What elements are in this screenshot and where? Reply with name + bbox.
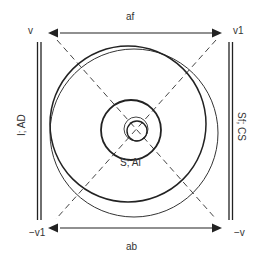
left-double-bar bbox=[38, 42, 42, 220]
arrowhead-left-icon bbox=[48, 224, 58, 233]
label-neg-v1: −v1 bbox=[29, 227, 46, 238]
inner-circle bbox=[127, 121, 147, 141]
label-right: Sf; CS bbox=[236, 112, 247, 141]
label-af: af bbox=[126, 11, 135, 22]
diagram-canvas: v v1 −v1 −v af ab I; AD Sf; CS S; AI bbox=[0, 0, 260, 262]
label-neg-v: −v bbox=[234, 227, 245, 238]
label-ab: ab bbox=[126, 241, 138, 252]
arrowhead-left-icon bbox=[48, 29, 58, 38]
label-left: I; AD bbox=[16, 114, 27, 136]
middle-circle bbox=[101, 100, 161, 160]
outer-circle bbox=[50, 49, 218, 217]
arrowhead-right-icon bbox=[212, 29, 222, 38]
label-center: S; AI bbox=[120, 157, 141, 168]
right-double-bar bbox=[229, 42, 233, 220]
arrowhead-right-icon bbox=[212, 224, 222, 233]
bottom-arrow bbox=[48, 224, 222, 233]
label-v1: v1 bbox=[233, 25, 244, 36]
diagonal-dashed-lines bbox=[56, 40, 216, 219]
top-arrow bbox=[48, 29, 222, 38]
label-v: v bbox=[28, 25, 33, 36]
second-circle bbox=[50, 46, 206, 202]
